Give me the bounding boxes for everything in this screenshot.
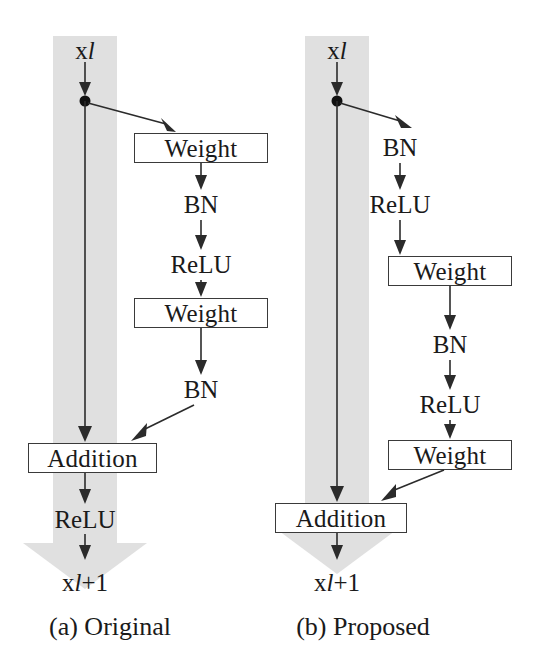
- arrow-head-weight1-bn2-proposed: [444, 315, 456, 330]
- relu-label-1-proposed: ReLU: [369, 192, 430, 217]
- edge-bn2-to-addition-original: [143, 405, 194, 430]
- caption-original: (a) Original: [49, 614, 171, 640]
- weight-box-2-original: Weight: [134, 298, 268, 328]
- output-subscript-original: l: [74, 569, 81, 596]
- arrow-head-weight2-addition-proposed: [381, 484, 396, 501]
- arrow-head-weight2-bn2-original: [195, 360, 207, 375]
- arrow-head-bn1-relu1-original: [195, 235, 207, 250]
- addition-box-original: Addition: [28, 443, 157, 473]
- caption-proposed: (b) Proposed: [296, 614, 430, 640]
- shortcut-arrow-head-proposed: [275, 528, 399, 574]
- arrow-head-relu2-weight2-proposed: [444, 424, 456, 439]
- relu-label-post-original: ReLU: [54, 507, 115, 532]
- arrow-head-branch-original: [161, 118, 176, 132]
- input-tensor-label-original: xl: [75, 38, 94, 63]
- arrow-head-bn2-relu2-proposed: [444, 375, 456, 390]
- bn-label-1-original: BN: [184, 192, 219, 217]
- weight-box-1-original: Weight: [134, 133, 268, 163]
- output-subscript-proposed: l: [326, 569, 333, 596]
- edge-weight2-to-addition-proposed: [392, 470, 444, 491]
- arrow-head-weight1-bn1-original: [195, 175, 207, 190]
- bn-label-1-proposed: BN: [383, 135, 418, 160]
- output-tensor-label-original: xl+1: [62, 570, 108, 595]
- weight-box-1-proposed: Weight: [388, 256, 512, 286]
- addition-box-proposed: Addition: [275, 503, 407, 533]
- arrow-head-bn1-relu1-proposed: [394, 175, 406, 190]
- output-tensor-label-proposed: xl+1: [314, 570, 360, 595]
- input-tensor-label-proposed: xl: [327, 38, 346, 63]
- weight-box-2-proposed: Weight: [388, 440, 512, 470]
- relu-label-1-original: ReLU: [170, 252, 231, 277]
- relu-label-2-proposed: ReLU: [419, 392, 480, 417]
- shortcut-band-proposed: [305, 36, 369, 528]
- bn-label-2-proposed: BN: [433, 332, 468, 357]
- arrow-head-bn2-addition-original: [131, 423, 147, 441]
- input-subscript-proposed: l: [340, 37, 347, 64]
- arrow-head-relu1-weight1-proposed: [394, 240, 406, 255]
- bn-label-2-original: BN: [184, 377, 219, 402]
- arrow-head-branch-proposed: [395, 115, 412, 128]
- residual-unit-figure: xl Weight BN ReLU Weight BN Addition ReL…: [0, 0, 543, 666]
- input-subscript-original: l: [88, 37, 95, 64]
- arrow-head-relu1-weight2-original: [195, 282, 207, 297]
